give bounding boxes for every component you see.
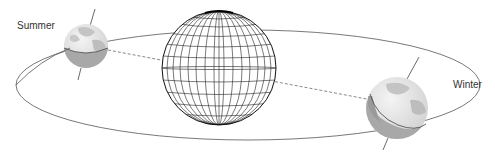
diagram-canvas	[0, 0, 495, 154]
earth-summer	[64, 9, 108, 80]
winter-label: Winter	[453, 79, 482, 90]
season-diagram: Summer Winter	[0, 0, 495, 154]
sun-globe	[162, 9, 276, 125]
earth-winter	[366, 57, 428, 150]
summer-label: Summer	[17, 20, 55, 31]
orbit-front-segment	[16, 48, 70, 85]
